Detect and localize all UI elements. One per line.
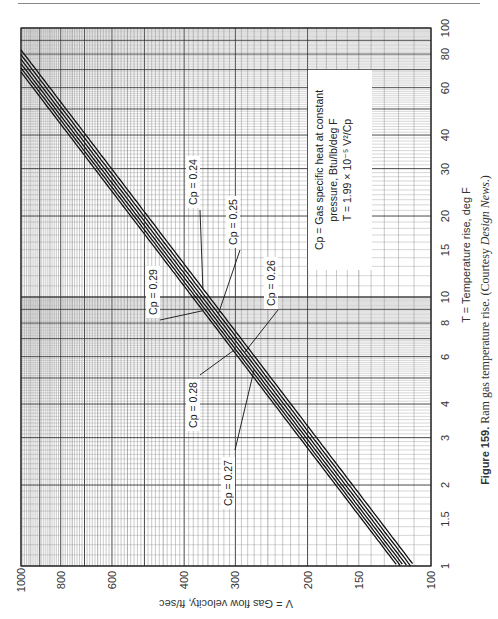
note-line-1: Cp = Gas specific heat at constant (312, 70, 326, 270)
v-tick-150: 150 (353, 571, 365, 589)
t-tick-10: 10 (439, 291, 451, 303)
t-tick-60: 60 (439, 82, 451, 94)
t-tick-80: 80 (439, 48, 451, 60)
v-tick-200: 200 (302, 571, 314, 589)
t-tick-8: 8 (439, 320, 451, 326)
t-tick-20: 20 (439, 210, 451, 222)
caption-source: Design News (478, 182, 492, 245)
caption-suffix: .) (478, 175, 492, 182)
formula-annotation-box: Cp = Gas specific heat at constant press… (308, 70, 372, 270)
t-axis-title: T = Temperature rise, deg F (460, 187, 472, 323)
v-tick-1000: 1000 (15, 568, 27, 592)
t-tick-40: 40 (439, 129, 451, 141)
t-tick-1: 1 (439, 563, 451, 569)
v-axis-title: V = Gas flow velocity, ft/sec (159, 598, 293, 610)
cp-label-2: Cp = 0.26 (264, 257, 278, 309)
cp-label-5: Cp = 0.29 (146, 266, 160, 318)
t-tick-3: 3 (439, 435, 451, 441)
t-tick-6: 6 (439, 354, 451, 360)
v-tick-600: 600 (106, 571, 118, 589)
t-tick-30: 30 (439, 163, 451, 175)
cp-label-0: Cp = 0.24 (186, 156, 200, 208)
v-tick-800: 800 (55, 571, 67, 589)
t-tick-100: 100 (439, 19, 451, 37)
t-tick-2: 2 (439, 482, 451, 488)
figure-number: Figure 159. (479, 427, 491, 485)
v-tick-100: 100 (425, 571, 437, 589)
t-tick-4: 4 (439, 401, 451, 407)
chart-plot-area (0, 0, 498, 619)
caption-text: Ram gas temperature rise. (Courtesy (478, 245, 492, 427)
cp-label-3: Cp = 0.27 (221, 457, 235, 509)
cp-label-1: Cp = 0.25 (226, 196, 240, 248)
t-tick-15: 15 (439, 244, 451, 256)
figure-caption: Figure 159. Ram gas temperature rise. (C… (478, 175, 493, 485)
t-tick-1.5: 1.5 (439, 511, 451, 526)
v-tick-400: 400 (178, 571, 190, 589)
cp-label-4: Cp = 0.28 (186, 379, 200, 431)
note-line-2: pressure, Btu/lb/deg F (326, 70, 340, 270)
v-tick-300: 300 (229, 571, 241, 589)
note-line-3: T = 1.99 × 10⁻⁵ V²/Cp (340, 70, 354, 270)
